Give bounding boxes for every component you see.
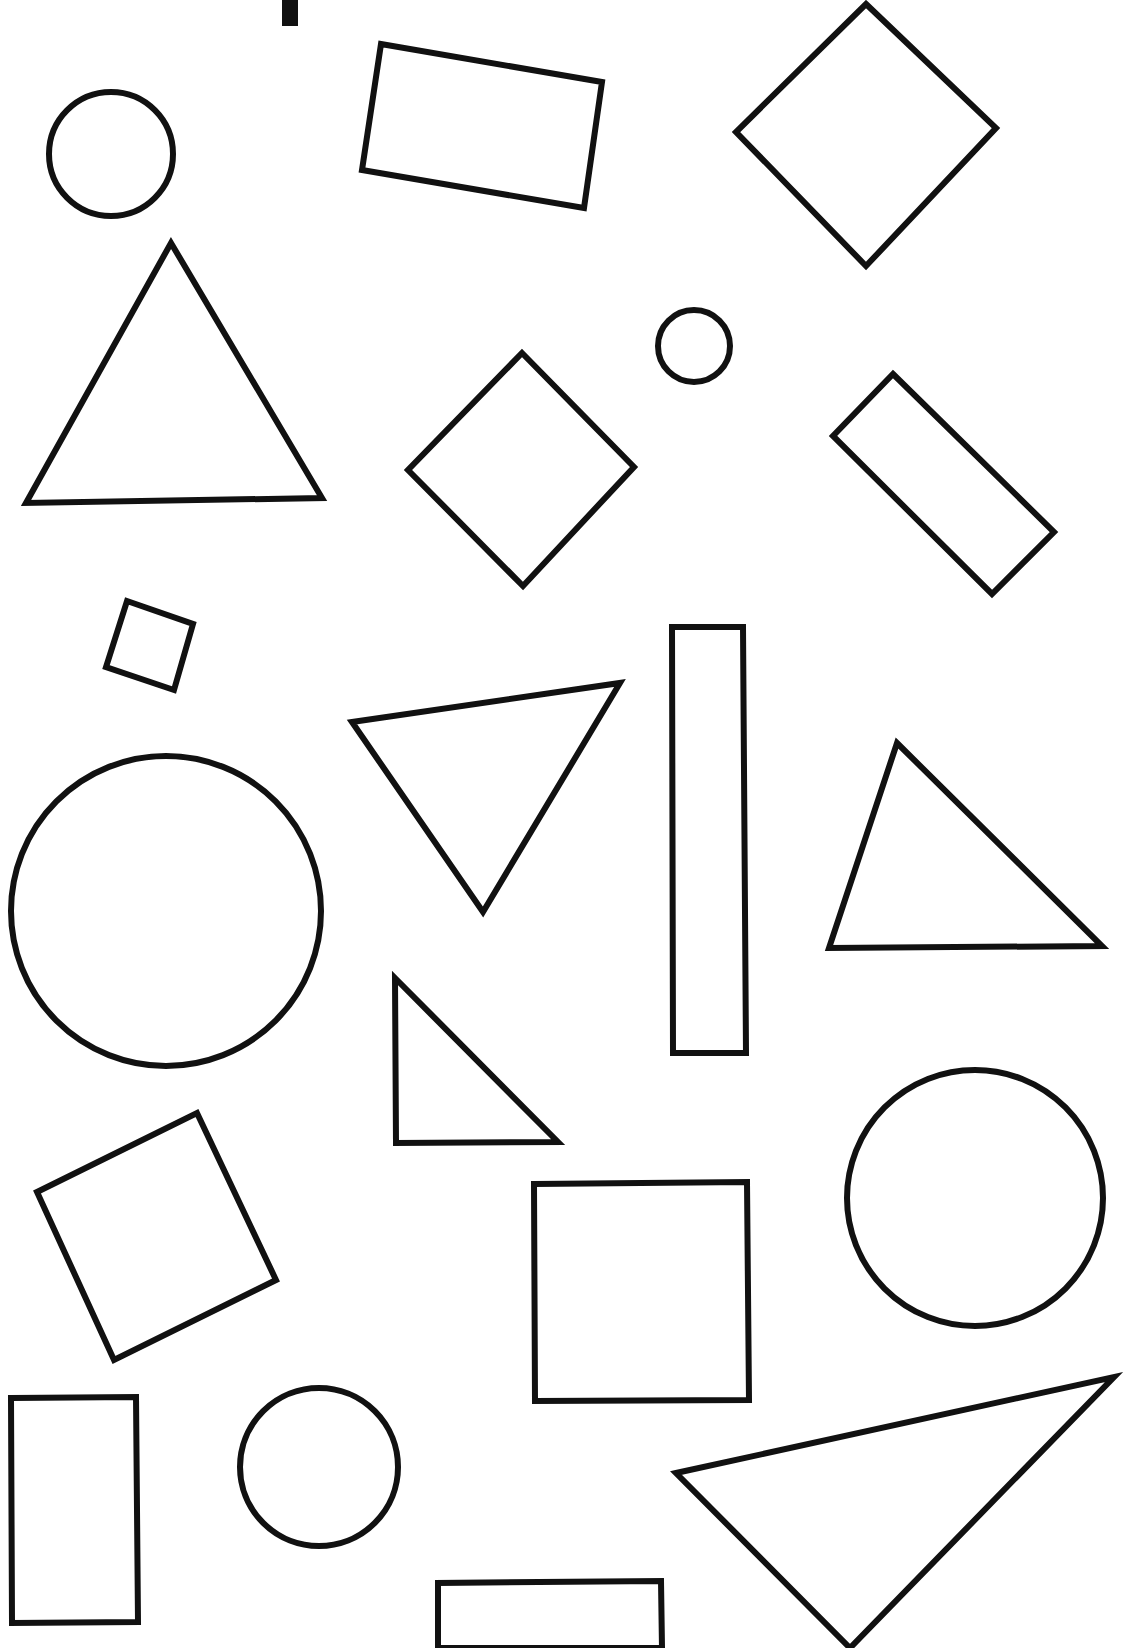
square-tilted-square	[37, 1113, 276, 1360]
square-small-square	[106, 601, 193, 690]
circle-large-circle	[11, 756, 321, 1066]
square-1-square	[534, 1182, 749, 1401]
circle-1-circle	[49, 92, 173, 216]
circle-small-circle	[658, 310, 730, 382]
shapes-canvas	[0, 0, 1132, 1648]
rect-bottom-rectangle	[438, 1581, 662, 1648]
diamond-1-diamond	[736, 4, 996, 266]
diamond-2-diamond	[408, 353, 634, 586]
rect-small-rectangle	[11, 1397, 138, 1623]
circle-3-circle	[240, 1388, 398, 1546]
top-bar-bar	[282, 0, 298, 26]
triangle-5-triangle	[676, 1377, 1114, 1648]
rect-diag-rectangle	[833, 374, 1054, 594]
circle-2-circle	[847, 1070, 1103, 1326]
triangle-1-triangle	[26, 243, 322, 503]
triangle-3-triangle	[829, 743, 1102, 948]
triangle-2-triangle	[352, 683, 620, 912]
rect-tall-rectangle	[672, 627, 746, 1053]
rect-tilted-1-rectangle	[362, 44, 602, 208]
triangle-4-triangle	[395, 978, 558, 1143]
shapes-worksheet	[0, 0, 1132, 1648]
